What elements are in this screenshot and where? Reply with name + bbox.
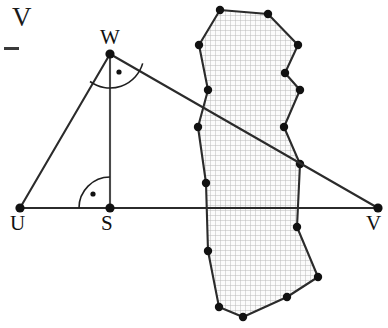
polygon-vertex-dot (296, 86, 304, 94)
polygon-vertex-dot (281, 69, 289, 77)
polygon-vertex-dot (216, 6, 224, 14)
polygon-vertex-dot (194, 123, 202, 131)
polygon-vertex-dot (283, 293, 291, 301)
segment-uw (20, 54, 110, 208)
polygon-vertex-dot (195, 41, 203, 49)
figure-canvas (0, 0, 388, 328)
angle-dot-at-w (116, 69, 121, 74)
polygon-vertex-dot (294, 41, 302, 49)
polygon-vertex-dot (314, 273, 322, 281)
vertex-label-v: V (366, 213, 381, 234)
angle-dot-at-s (90, 191, 95, 196)
polygon-vertex-dot (264, 10, 272, 18)
polygon-vertex-dot (204, 86, 212, 94)
vertex-label-w: W (100, 27, 120, 48)
crop-dash-mark (4, 47, 19, 50)
geometry-figure: V U S W V (0, 0, 388, 328)
vertex-label-s: S (101, 213, 113, 234)
vertex-label-u: U (10, 213, 25, 234)
corner-label-v: V (12, 4, 32, 31)
polygon-vertex-dot (215, 303, 223, 311)
triangle-vertex-dot-w (105, 49, 114, 58)
polygon-vertex-dot (293, 223, 301, 231)
polygon-vertex-dot (204, 247, 212, 255)
polygon-vertex-dot (280, 123, 288, 131)
polygon-vertex-dot (202, 179, 210, 187)
polygon-vertex-dot (239, 313, 247, 321)
hatched-polygon-group (194, 6, 322, 321)
